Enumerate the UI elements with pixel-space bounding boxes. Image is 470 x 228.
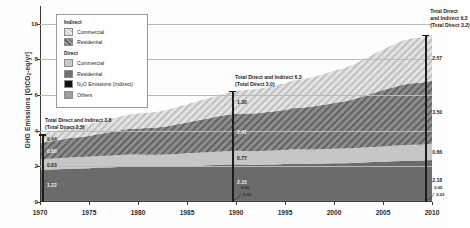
legend-group-direct: Direct Commercial Residential N2O Emissi… <box>64 51 141 98</box>
marker-1970-segment-label: 0.83 <box>47 162 57 168</box>
y-tick-mark <box>37 24 40 25</box>
marker-1970-segment-label: 1.22 <box>47 182 57 188</box>
y-axis-label: GHG Emissions [GtCO2-eq/yr] <box>24 30 32 170</box>
legend-label-direct-commercial: Commercial <box>77 60 104 66</box>
legend-swatch-direct-others <box>64 91 73 99</box>
legend-label-direct-n2o: N2O Emissions (Indirect) <box>77 81 133 88</box>
marker-1990 <box>232 91 234 202</box>
legend-group-indirect: Indirect Commercial Residential <box>64 20 141 46</box>
marker-1990-subtitle: (Total Direct 3.0) <box>235 81 275 88</box>
x-tick-mark <box>285 202 286 205</box>
marker-1990-cap <box>229 91 236 93</box>
marker-2010-right-label: 2.57 <box>432 55 442 61</box>
legend-label-indirect-commercial: Commercial <box>77 29 104 35</box>
gridline <box>40 166 432 167</box>
x-tick-label: 2000 <box>314 209 354 216</box>
x-tick-mark <box>138 202 139 205</box>
marker-1970 <box>42 134 44 202</box>
marker-2010-right-label: 3.50 <box>432 109 442 115</box>
legend-label-indirect-residential: Residential <box>77 39 102 45</box>
marker-2010-subtitle2: (Total Direct 3.2) <box>430 22 470 29</box>
x-tick-label: 1995 <box>265 209 305 216</box>
legend-swatch-indirect-commercial <box>64 28 73 36</box>
legend-item-indirect-commercial: Commercial <box>64 28 141 36</box>
legend-item-indirect-residential: Residential <box>64 38 141 46</box>
marker-1970-cap <box>39 134 46 136</box>
marker-1990-segment-label: 1.30 <box>237 99 247 105</box>
marker-1970-segment-label: 0.86 <box>47 148 57 154</box>
x-tick-mark <box>187 202 188 205</box>
x-tick-mark <box>432 202 433 205</box>
legend-item-direct-n2o: N2O Emissions (Indirect) <box>64 80 141 88</box>
x-tick-label: 1990 <box>216 209 256 216</box>
x-tick-mark <box>89 202 90 205</box>
legend-swatch-direct-commercial <box>64 59 73 67</box>
x-tick-label: 1985 <box>167 209 207 216</box>
marker-2010-leader-line <box>426 188 440 202</box>
marker-2010-right-label: 0.66 <box>432 149 442 155</box>
marker-1990-leader-line <box>233 188 247 202</box>
legend-swatch-indirect-residential <box>64 38 73 46</box>
legend-heading-indirect: Indirect <box>64 20 141 25</box>
legend-label-direct-others: Others <box>77 92 92 98</box>
x-tick-label: 1970 <box>20 209 60 216</box>
legend-swatch-direct-residential <box>64 70 73 78</box>
marker-2010 <box>425 35 427 202</box>
legend-item-direct-others: Others <box>64 91 141 99</box>
y-tick-mark <box>37 59 40 60</box>
marker-2010-cap <box>422 35 429 37</box>
x-tick-label: 2010 <box>412 209 452 216</box>
gridline <box>40 131 432 132</box>
x-tick-mark <box>40 202 41 205</box>
marker-2010-right-label: 2.18 <box>432 177 442 183</box>
y-tick-mark <box>37 131 40 132</box>
legend-item-direct-residential: Residential <box>64 70 141 78</box>
marker-1990-segment-label: 2.41 <box>237 129 247 135</box>
marker-1970-subtitle: (Total Direct 2.5) <box>45 124 85 131</box>
x-tick-mark <box>334 202 335 205</box>
x-tick-label: 2005 <box>363 209 403 216</box>
x-tick-mark <box>383 202 384 205</box>
x-tick-mark <box>236 202 237 205</box>
legend: Indirect Commercial Residential Direct C… <box>56 14 148 108</box>
marker-1990-segment-label: 0.77 <box>237 155 247 161</box>
legend-swatch-direct-n2o <box>64 80 73 88</box>
legend-item-direct-commercial: Commercial <box>64 59 141 67</box>
legend-label-direct-residential: Residential <box>77 71 102 77</box>
y-tick-mark <box>37 95 40 96</box>
marker-1970-segment-label: 0.44 <box>47 136 57 142</box>
x-tick-label: 1980 <box>118 209 158 216</box>
legend-heading-direct: Direct <box>64 51 141 56</box>
y-tick-mark <box>37 166 40 167</box>
x-tick-label: 1975 <box>69 209 109 216</box>
